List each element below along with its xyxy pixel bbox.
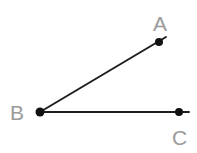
point-b xyxy=(36,108,45,117)
label-c: C xyxy=(172,126,187,149)
point-c xyxy=(175,108,183,116)
label-b: B xyxy=(10,101,24,124)
point-a xyxy=(155,38,163,46)
diagram-svg: A B C xyxy=(0,0,197,153)
label-a: A xyxy=(153,12,167,35)
ray-ba xyxy=(40,37,166,112)
angle-diagram: A B C xyxy=(0,0,197,153)
